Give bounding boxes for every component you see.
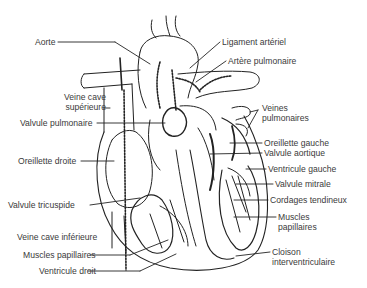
heart-diagram: Aorte Veine cave supérieure Valvule pulm… xyxy=(0,0,367,288)
right-ventricle xyxy=(131,195,173,253)
heart-outline xyxy=(97,116,268,270)
label-ventricule-gauche: Ventricule gauche xyxy=(268,164,336,174)
aorta-outline xyxy=(140,36,198,98)
label-muscles-papillaires-droit: Muscles papillaires xyxy=(23,250,96,260)
label-valvule-pulmonaire: Valvule pulmonaire xyxy=(20,118,92,128)
label-valvule-aortique: Valvule aortique xyxy=(264,148,325,158)
label-ventricule-droit: Ventricule droit xyxy=(39,266,96,276)
label-ligament-arteriel: Ligament artériel xyxy=(222,37,286,47)
label-muscles-papillaires-gauche: Muscles papillaires xyxy=(278,212,317,232)
label-cordages-tendineux: Cordages tendineux xyxy=(270,195,347,205)
label-oreillette-droite: Oreillette droite xyxy=(18,156,76,166)
label-artere-pulmonaire: Artère pulmonaire xyxy=(228,56,296,66)
pulmonary-veins xyxy=(232,106,250,136)
label-cloison-interventriculaire: Cloison interventriculaire xyxy=(272,247,335,267)
label-veines-pulmonaires: Veines pulmonaires xyxy=(262,103,309,123)
aorta-branches xyxy=(151,16,180,38)
label-aorte: Aorte xyxy=(35,37,56,47)
label-veine-cave-superieure: Veine cave supérieure xyxy=(54,92,106,112)
label-oreillette-gauche: Oreillette gauche xyxy=(264,138,329,148)
superior-vena-cava xyxy=(81,70,140,88)
label-veine-cave-inferieure: Veine cave inférieure xyxy=(17,232,97,242)
pulmonary-artery-outline xyxy=(178,71,259,98)
label-valvule-mitrale: Valvule mitrale xyxy=(275,179,331,189)
label-valvule-tricuspide: Valvule tricuspide xyxy=(8,200,75,210)
